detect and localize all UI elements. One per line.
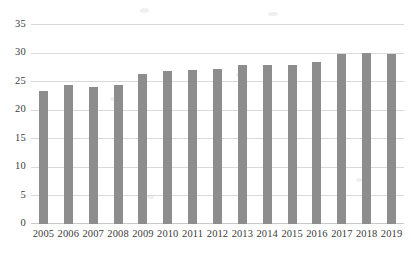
- y-axis-tick-label-30: 30: [2, 47, 26, 58]
- paper-speckle: [140, 8, 149, 13]
- bar-2018: [362, 53, 371, 224]
- bar-2005: [39, 91, 48, 224]
- bars-layer: [31, 24, 404, 224]
- y-axis-tick-label-20: 20: [2, 104, 26, 115]
- y-axis-tick-label-10: 10: [2, 161, 26, 172]
- bar-2016: [312, 62, 321, 224]
- y-axis-tick-label-5: 5: [2, 190, 26, 201]
- bar-2008: [114, 85, 123, 224]
- bar-2013: [238, 65, 247, 224]
- bar-2017: [337, 54, 346, 224]
- y-axis-tick-label-35: 35: [2, 19, 26, 30]
- y-axis-tick-label-0: 0: [2, 218, 26, 229]
- bar-2006: [64, 85, 73, 224]
- bar-chart: 35 30 25 20 15 10 5 0 200520062007200820…: [0, 0, 411, 256]
- bar-2010: [163, 71, 172, 224]
- bar-2015: [288, 65, 297, 224]
- bar-2019: [387, 54, 396, 224]
- bar-2011: [188, 70, 197, 224]
- bar-2009: [138, 74, 147, 224]
- y-axis-tick-label-15: 15: [2, 133, 26, 144]
- y-axis-tick-label-25: 25: [2, 76, 26, 87]
- bar-2012: [213, 69, 222, 224]
- plot-area: [31, 24, 404, 224]
- x-axis-tick-label-2019: 2019: [375, 228, 409, 239]
- paper-speckle: [268, 12, 278, 16]
- bar-2007: [89, 87, 98, 224]
- bar-2014: [263, 65, 272, 224]
